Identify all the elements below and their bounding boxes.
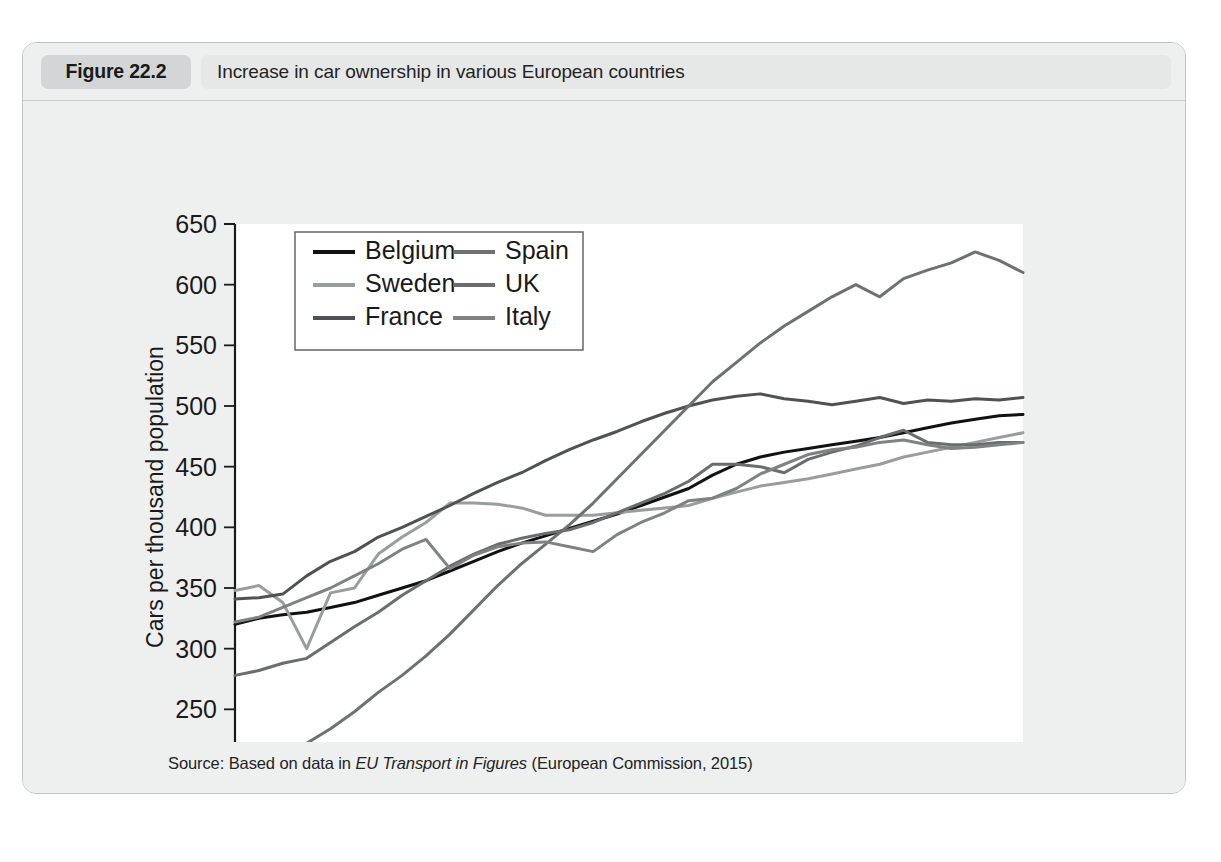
y-tick-label: 450: [175, 453, 217, 481]
y-tick-label: 300: [175, 635, 217, 663]
figure-header: Figure 22.2 Increase in car ownership in…: [23, 43, 1185, 101]
y-tick-label: 550: [175, 331, 217, 359]
source-title: EU Transport in Figures: [355, 754, 527, 772]
chart-container: 2002503003504004505005506006501980198519…: [23, 102, 1185, 742]
page-root: Figure 22.2 Increase in car ownership in…: [0, 0, 1221, 862]
y-tick-label: 500: [175, 392, 217, 420]
source-note: Source: Based on data in EU Transport in…: [168, 754, 753, 773]
source-suffix: (European Commission, 2015): [527, 754, 753, 772]
y-axis-title: Cars per thousand population: [142, 346, 168, 648]
y-tick-label: 400: [175, 513, 217, 541]
legend-label-italy: Italy: [505, 302, 551, 330]
y-tick-label: 250: [175, 695, 217, 723]
y-tick-label: 650: [175, 210, 217, 238]
legend-label-spain: Spain: [505, 236, 569, 264]
figure-number-badge: Figure 22.2: [41, 55, 191, 89]
legend-label-france: France: [365, 302, 443, 330]
legend-label-belgium: Belgium: [365, 236, 455, 264]
figure-caption: Increase in car ownership in various Eur…: [217, 61, 685, 83]
legend-label-uk: UK: [505, 269, 540, 297]
figure-body: 2002503003504004505005506006501980198519…: [23, 102, 1185, 794]
figure-card: Figure 22.2 Increase in car ownership in…: [22, 42, 1186, 794]
y-tick-label: 350: [175, 574, 217, 602]
y-tick-label: 600: [175, 271, 217, 299]
line-chart: 2002503003504004505005506006501980198519…: [23, 102, 1186, 742]
figure-caption-container: Increase in car ownership in various Eur…: [201, 55, 1171, 89]
legend-label-sweden: Sweden: [365, 269, 455, 297]
source-prefix: Source: Based on data in: [168, 754, 355, 772]
